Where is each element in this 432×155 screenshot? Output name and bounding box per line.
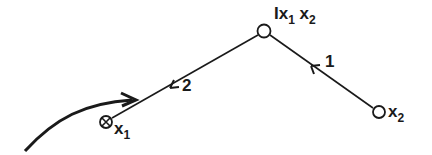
node-top-circle (258, 25, 271, 38)
label-var: x (295, 4, 309, 23)
node-x2-circle (373, 106, 385, 118)
edge-1-line (270, 35, 373, 108)
diagram-canvas (0, 0, 432, 155)
label-subscript: 1 (123, 128, 130, 142)
edge-2-label: 2 (182, 77, 191, 94)
label-subscript: 2 (309, 13, 316, 27)
edge-1-label: 1 (325, 53, 334, 70)
node-x2-label: x2 (388, 103, 404, 124)
label-subscript: 2 (397, 111, 404, 125)
node-x1-label: x1 (114, 120, 130, 141)
node-top-label: Ix1 x2 (274, 5, 316, 26)
label-subscript: 1 (288, 13, 295, 27)
node-x1-crossed-circle-icon (100, 116, 112, 128)
label-var: x (279, 4, 288, 23)
